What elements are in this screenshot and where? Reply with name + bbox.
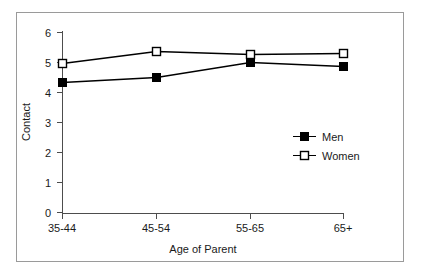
legend-entry-men[interactable]: Men (293, 131, 343, 143)
y-tick-label-1: 1 (45, 177, 51, 189)
series-men-marker-2 (247, 59, 255, 67)
legend-men-label: Men (322, 131, 343, 143)
x-tick-label-3: 65+ (334, 222, 353, 234)
legend-women-label: Women (322, 150, 360, 162)
legend-women-marker-icon (301, 152, 309, 160)
series-men-marker-1 (153, 74, 161, 82)
chart-legend: Men Women (293, 131, 360, 162)
line-chart: 6 5 4 3 2 1 0 35-44 45-54 55-65 65+ Age … (0, 0, 422, 276)
x-tick-label-2: 55-65 (236, 222, 264, 234)
x-axis-title: Age of Parent (169, 243, 236, 255)
legend-men-marker-icon (301, 133, 309, 141)
series-women-marker-2 (247, 51, 255, 59)
series-women-marker-1 (153, 48, 161, 56)
series-men-line (63, 63, 344, 83)
y-axis-title: Contact (20, 103, 32, 141)
legend-entry-women[interactable]: Women (293, 150, 360, 162)
y-tick-label-6: 6 (45, 27, 51, 39)
series-women-marker-3 (340, 50, 348, 58)
y-tick-label-0: 0 (45, 207, 51, 219)
series-men-marker-3 (340, 63, 348, 71)
x-axis-tick-labels: 35-44 45-54 55-65 65+ (48, 222, 352, 234)
y-axis-tick-labels: 6 5 4 3 2 1 0 (45, 27, 51, 219)
y-tick-label-4: 4 (45, 87, 51, 99)
y-tick-label-5: 5 (45, 57, 51, 69)
series-men (59, 59, 348, 87)
y-tick-label-3: 3 (45, 117, 51, 129)
y-tick-label-2: 2 (45, 147, 51, 159)
series-men-marker-0 (59, 79, 67, 87)
series-women-marker-0 (59, 60, 67, 68)
series-women-line (63, 52, 344, 64)
chart-figure: 6 5 4 3 2 1 0 35-44 45-54 55-65 65+ Age … (0, 0, 422, 276)
x-tick-label-1: 45-54 (142, 222, 170, 234)
x-tick-label-0: 35-44 (48, 222, 76, 234)
